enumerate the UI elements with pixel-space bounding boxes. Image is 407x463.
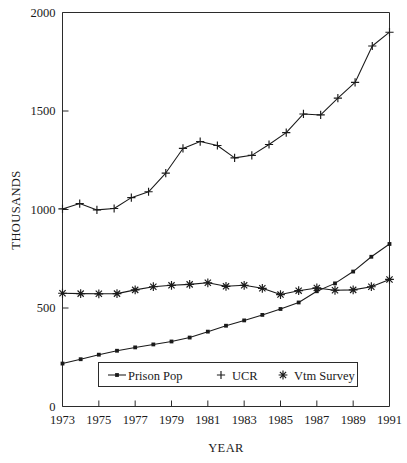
marker-square-dot: [79, 357, 83, 361]
marker-asterisk: [76, 289, 85, 298]
x-tick-label: 1983: [232, 413, 257, 427]
marker-asterisk: [222, 282, 231, 291]
marker-asterisk: [331, 286, 340, 295]
marker-asterisk: [203, 278, 212, 287]
series-ucr: [58, 28, 393, 214]
marker-asterisk: [185, 280, 194, 289]
series-prison-pop: [61, 242, 392, 365]
marker-asterisk: [131, 285, 140, 294]
plot-frame: [63, 13, 390, 407]
y-tick-label: 500: [37, 301, 56, 315]
x-axis-title: YEAR: [208, 441, 244, 455]
marker-asterisk: [258, 284, 267, 293]
x-tick-label: 1973: [50, 413, 75, 427]
marker-plus: [179, 144, 187, 152]
y-tick-label: 1500: [31, 104, 56, 118]
marker-square-dot: [115, 349, 119, 353]
series-line: [63, 32, 390, 210]
marker-asterisk: [94, 289, 103, 298]
chart-container: 0500100015002000 19731975197719791981198…: [0, 0, 407, 463]
marker-square-dot: [351, 270, 355, 274]
marker-plus: [127, 194, 135, 202]
x-axis-ticks: [99, 401, 353, 407]
x-tick-label: 1987: [304, 413, 329, 427]
marker-square-dot: [61, 362, 65, 366]
marker-asterisk: [312, 284, 321, 293]
marker-square-dot: [151, 343, 155, 347]
marker-plus: [265, 140, 273, 148]
marker-plus: [248, 151, 256, 159]
legend-item-label: Vtm Survey: [294, 369, 356, 383]
marker-asterisk: [279, 371, 288, 380]
chart-legend: Prison PopUCRVtm Survey: [99, 363, 358, 387]
data-series-layer: [58, 28, 394, 365]
marker-square-dot: [188, 336, 192, 340]
marker-square-dot: [170, 340, 174, 344]
marker-plus: [76, 199, 84, 207]
marker-square-dot: [260, 313, 264, 317]
marker-square-dot: [97, 353, 101, 357]
marker-asterisk: [58, 289, 67, 298]
legend-item-label: UCR: [232, 369, 258, 383]
marker-square-dot: [115, 373, 119, 377]
marker-square-dot: [279, 307, 283, 311]
marker-square-dot: [206, 330, 210, 334]
marker-asterisk: [240, 281, 249, 290]
marker-square-dot: [333, 281, 337, 285]
marker-asterisk: [349, 285, 358, 294]
legend-item-label: Prison Pop: [128, 369, 183, 383]
y-tick-label: 2000: [31, 6, 56, 20]
marker-square-dot: [242, 319, 246, 323]
marker-asterisk: [113, 289, 122, 298]
marker-plus: [213, 141, 221, 149]
marker-plus: [93, 206, 101, 214]
y-axis-tick-labels: 0500100015002000: [31, 6, 56, 414]
marker-plus: [58, 205, 66, 213]
marker-plus: [196, 137, 204, 145]
x-axis-tick-labels: 1973197519771979198119831985198719891991: [50, 413, 402, 427]
line-chart: 0500100015002000 19731975197719791981198…: [0, 0, 407, 463]
marker-plus: [231, 154, 239, 162]
x-tick-label: 1975: [86, 413, 111, 427]
marker-asterisk: [367, 282, 376, 291]
marker-square-dot: [388, 242, 392, 246]
marker-square-dot: [133, 346, 137, 350]
marker-asterisk: [385, 275, 394, 284]
marker-square-dot: [224, 324, 228, 328]
y-axis-title: THOUSANDS: [9, 170, 23, 249]
marker-square-dot: [297, 301, 301, 305]
marker-asterisk: [294, 286, 303, 295]
series-line: [63, 244, 390, 364]
marker-square-dot: [369, 255, 373, 259]
x-tick-label: 1989: [341, 413, 366, 427]
x-tick-label: 1981: [195, 413, 220, 427]
marker-asterisk: [149, 282, 158, 291]
marker-asterisk: [167, 281, 176, 290]
x-tick-label: 1977: [123, 413, 148, 427]
x-tick-label: 1979: [159, 413, 184, 427]
x-tick-label: 1985: [268, 413, 293, 427]
x-tick-label: 1991: [377, 413, 402, 427]
series-vtm-survey: [58, 275, 394, 299]
y-axis-ticks: [63, 13, 69, 407]
y-tick-label: 1000: [31, 203, 56, 217]
marker-asterisk: [276, 290, 285, 299]
marker-plus: [110, 204, 118, 212]
